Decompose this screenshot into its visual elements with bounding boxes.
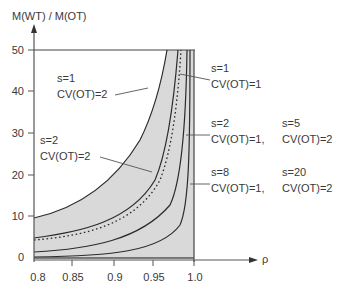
- x-tick-0.95: 0.95: [143, 271, 164, 283]
- x-tick-0.85: 0.85: [62, 271, 83, 283]
- label-s20-cv2-s: s=20: [282, 166, 306, 178]
- label-s1-cv1-cv: CV(OT)=1: [211, 78, 261, 90]
- label-s1-cv1-s: s=1: [211, 62, 229, 74]
- x-ticks: [72, 260, 194, 266]
- y-tick-0: 0: [18, 251, 24, 263]
- x-tick-labels: 0.8 0.85 0.9 0.95 1.0: [30, 271, 202, 283]
- y-tick-30: 30: [12, 127, 24, 139]
- y-tick-labels: 50 40 30 20 10 0: [12, 44, 24, 263]
- chart-canvas: 50 40 30 20 10 0 0.8 0.85 0.9 0.95 1.0 M…: [0, 0, 341, 295]
- y-tick-10: 10: [12, 210, 24, 222]
- x-tick-0.9: 0.9: [107, 271, 122, 283]
- label-s1-cv2-cv: CV(OT)=2: [57, 88, 107, 100]
- label-s2-cv2-cv: CV(OT)=2: [40, 150, 90, 162]
- label-s8-cv1-s: s=8: [211, 166, 229, 178]
- label-s2-cv2-s: s=2: [40, 134, 58, 146]
- y-axis-arrow-icon: [31, 24, 37, 33]
- y-tick-50: 50: [12, 44, 24, 56]
- label-s8-cv1-cv: CV(OT)=1,: [211, 182, 264, 194]
- y-tick-20: 20: [12, 169, 24, 181]
- y-ticks: [28, 50, 34, 216]
- label-s5-cv2-s: s=5: [282, 117, 300, 129]
- x-tick-1.0: 1.0: [187, 271, 202, 283]
- label-s5-cv2-cv: CV(OT)=2: [282, 133, 332, 145]
- label-s1-cv2-s: s=1: [57, 72, 75, 84]
- y-tick-40: 40: [12, 85, 24, 97]
- x-axis-arrow-icon: [249, 257, 258, 263]
- label-s20-cv2-cv: CV(OT)=2: [282, 182, 332, 194]
- x-tick-0.8: 0.8: [30, 271, 45, 283]
- label-s2-cv1-cv: CV(OT)=1,: [211, 133, 264, 145]
- leader-s1-cv2: [115, 88, 148, 95]
- x-axis-label: ρ: [262, 253, 268, 265]
- label-s2-cv1-s: s=2: [211, 117, 229, 129]
- y-axis-label: M(WT) / M(OT): [12, 10, 87, 22]
